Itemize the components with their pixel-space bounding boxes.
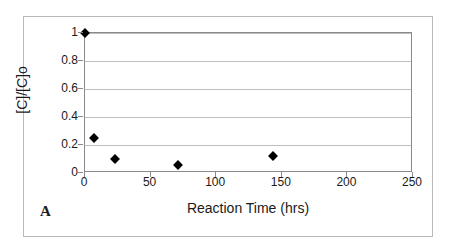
y-axis-tick-labels: 00.20.40.60.81 — [44, 32, 78, 172]
x-tick-label: 150 — [271, 176, 291, 188]
data-point-marker — [173, 160, 183, 170]
y-tick-mark — [78, 172, 83, 173]
x-tick-mark — [215, 172, 216, 177]
y-tick-label: 0 — [71, 166, 78, 178]
gridline-horizontal — [85, 117, 411, 118]
gridline-horizontal — [85, 61, 411, 62]
y-tick-mark — [78, 32, 83, 33]
x-tick-label: 200 — [336, 176, 356, 188]
y-tick-label: 0.8 — [61, 54, 78, 66]
gridline-horizontal — [85, 145, 411, 146]
panel-letter-label: A — [40, 203, 51, 220]
figure-panel-a: 00.20.40.60.81 050100150200250 Reaction … — [0, 0, 456, 250]
x-tick-mark — [150, 172, 151, 177]
y-tick-label: 0.4 — [61, 110, 78, 122]
y-tick-label: 0.6 — [61, 82, 78, 94]
data-point-marker — [110, 154, 120, 164]
y-tick-mark — [78, 116, 83, 117]
x-tick-mark — [84, 172, 85, 177]
y-axis-title: [C]/[C]o — [14, 40, 30, 140]
x-tick-label: 0 — [81, 176, 88, 188]
x-axis-tick-labels: 050100150200250 — [84, 176, 412, 192]
data-point-marker — [268, 151, 278, 161]
x-tick-label: 50 — [143, 176, 156, 188]
gridline-horizontal — [85, 33, 411, 34]
y-tick-mark — [78, 144, 83, 145]
gridline-horizontal — [85, 89, 411, 90]
y-tick-label: 0.2 — [61, 138, 78, 150]
data-point-marker — [89, 133, 99, 143]
y-tick-mark — [78, 88, 83, 89]
y-tick-label: 1 — [71, 26, 78, 38]
y-tick-mark — [78, 60, 83, 61]
x-tick-mark — [346, 172, 347, 177]
x-tick-mark — [412, 172, 413, 177]
x-tick-label: 250 — [402, 176, 422, 188]
x-axis-title: Reaction Time (hrs) — [84, 200, 412, 216]
x-tick-mark — [281, 172, 282, 177]
x-tick-label: 100 — [205, 176, 225, 188]
plot-area — [84, 32, 412, 172]
